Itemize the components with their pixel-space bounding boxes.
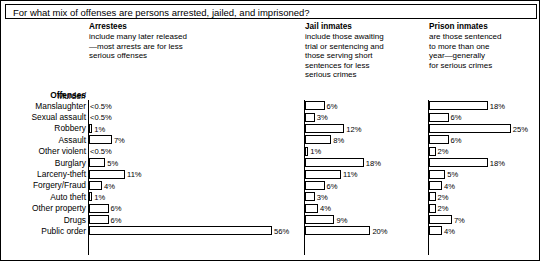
bar [429, 113, 449, 122]
bar [305, 135, 331, 144]
row-label: Other violent [1, 146, 86, 156]
bar [89, 181, 102, 190]
bar [429, 170, 445, 179]
bar [89, 226, 272, 235]
column-desc-line: trial or sentencing and [305, 42, 384, 52]
bar-chart: Murder/Manslaughter<0.5%6%18%Sexual assa… [1, 100, 540, 255]
column-desc-line: serious crimes [305, 70, 384, 80]
bar [305, 101, 325, 110]
column-desc-line: to more than one [429, 42, 502, 52]
bar [89, 204, 109, 213]
row-label: Public order [1, 226, 86, 236]
bar [429, 158, 488, 167]
row-label: Murder/Manslaughter [1, 91, 86, 111]
bar-value-label: 9% [336, 216, 347, 225]
bar [429, 215, 452, 224]
column-desc-line: include many later released [89, 32, 187, 42]
bar-value-label: 6% [111, 216, 122, 225]
chart-row: Larceny-theft11%11%5% [1, 168, 540, 179]
bar [305, 215, 334, 224]
chart-row: Forgery/Fraud4%6%4% [1, 180, 540, 191]
bar-value-label: 7% [454, 216, 465, 225]
bar [89, 192, 92, 201]
bar-value-label: 6% [451, 113, 462, 122]
column-desc-line: sentences for less [305, 61, 384, 71]
bar-value-label: 5% [447, 170, 458, 179]
chart-row: Auto theft1%3%2% [1, 191, 540, 202]
bar-value-label: 4% [444, 182, 455, 191]
row-label: Robbery [1, 123, 86, 133]
column-title-jail-inmates: Jail inmates [305, 22, 384, 32]
bar-value-label: 18% [366, 159, 381, 168]
bar-value-label: 1% [310, 147, 321, 156]
column-desc-line: for serious crimes [429, 61, 502, 71]
bar-value-label: 25% [513, 125, 528, 134]
column-desc-line: those serving short [305, 51, 384, 61]
bar [305, 124, 344, 133]
bar [305, 158, 364, 167]
column-desc-line: include those awaiting [305, 32, 384, 42]
bar-value-label: 12% [346, 125, 361, 134]
bar [305, 170, 341, 179]
column-desc-line: year—generally [429, 51, 502, 61]
row-label: Drugs [1, 215, 86, 225]
bar-value-label: 4% [104, 182, 115, 191]
column-header-jail-inmates: Jail inmates include those awaiting tria… [305, 22, 384, 80]
figure-panel: For what mix of offenses are persons arr… [0, 0, 540, 261]
chart-rows: Murder/Manslaughter<0.5%6%18%Sexual assa… [1, 100, 540, 237]
bar-value-label: 2% [438, 193, 449, 202]
chart-row: Robbery1%12%25% [1, 123, 540, 134]
bar-value-label: 2% [438, 147, 449, 156]
bar-value-label: 5% [107, 159, 118, 168]
chart-row: Other violent<0.5%1%2% [1, 146, 540, 157]
chart-row: Other property6%4%2% [1, 203, 540, 214]
row-label: Burglary [1, 158, 86, 168]
chart-row: Burglary5%18%18% [1, 157, 540, 168]
bar [89, 170, 125, 179]
column-desc-line: —most arrests are for less [89, 42, 187, 52]
bar [429, 204, 436, 213]
bar-value-label: 56% [274, 227, 289, 236]
chart-row: Sexual assault<0.5%3%6% [1, 111, 540, 122]
chart-row: Public order56%20%4% [1, 225, 540, 236]
bar-value-label: 11% [343, 170, 358, 179]
chart-row: Drugs6%9%7% [1, 214, 540, 225]
bar-value-label: 11% [127, 170, 142, 179]
bar-value-label: 18% [490, 159, 505, 168]
bar [429, 124, 511, 133]
bar-value-label: 4% [320, 204, 331, 213]
bar-value-label: 18% [490, 102, 505, 111]
bar [429, 226, 442, 235]
column-header-arrestees: Arrestees include many later released —m… [89, 22, 187, 61]
bar [429, 135, 449, 144]
bar [89, 135, 112, 144]
bar [429, 192, 436, 201]
bar-value-label: 4% [444, 227, 455, 236]
bar-value-label: 3% [317, 113, 328, 122]
bar-value-label: 6% [327, 102, 338, 111]
bar-value-label: 6% [327, 182, 338, 191]
bar-value-label: <0.5% [90, 147, 112, 156]
bar-value-label: 1% [94, 125, 105, 134]
chart-row: Assault7%8%6% [1, 134, 540, 145]
row-label: Larceny-theft [1, 169, 86, 179]
bar-value-label: <0.5% [90, 113, 112, 122]
bar-value-label: 1% [94, 193, 105, 202]
row-label: Forgery/Fraud [1, 180, 86, 190]
column-desc-line: are those sentenced [429, 32, 502, 42]
row-label: Other property [1, 203, 86, 213]
bar-value-label: 20% [372, 227, 387, 236]
bar [429, 147, 436, 156]
bar [429, 181, 442, 190]
bar-value-label: 8% [333, 136, 344, 145]
bar [305, 192, 315, 201]
bar-value-label: 6% [111, 204, 122, 213]
page-title: For what mix of offenses are persons arr… [13, 8, 310, 18]
bar-value-label: 6% [451, 136, 462, 145]
row-label: Assault [1, 135, 86, 145]
bar [89, 158, 105, 167]
row-label: Auto theft [1, 192, 86, 202]
bar [89, 215, 109, 224]
bar-value-label: 2% [438, 204, 449, 213]
bar [305, 226, 370, 235]
